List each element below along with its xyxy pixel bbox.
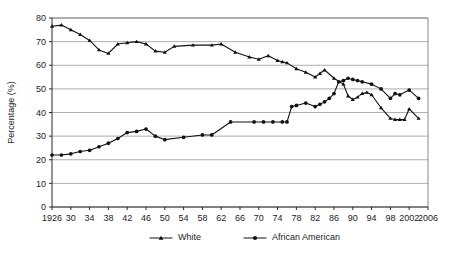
y-tick-label: 40 [36, 108, 46, 118]
series-marker-circle [351, 78, 355, 82]
chart-canvas: 0102030405060708019263034384246505458626… [0, 0, 451, 255]
x-tick-label: 38 [103, 213, 113, 223]
series-marker-circle [271, 120, 275, 124]
series-marker-circle [417, 96, 421, 100]
y-tick-label: 80 [36, 13, 46, 23]
series-marker-circle [50, 153, 54, 157]
series-marker-circle [342, 79, 346, 83]
x-tick-label: 70 [254, 213, 264, 223]
series-marker-circle [290, 105, 294, 109]
x-tick-label: 66 [235, 213, 245, 223]
series-path [52, 25, 419, 120]
x-tick-label: 2002 [399, 213, 419, 223]
series-marker-triangle [323, 68, 327, 71]
series-marker-circle [163, 138, 167, 142]
y-tick-label: 60 [36, 60, 46, 70]
series-marker-circle [253, 236, 257, 240]
series-marker-circle [280, 120, 284, 124]
series-marker-circle [135, 130, 139, 134]
series-marker-circle [285, 120, 289, 124]
series-marker-circle [60, 153, 64, 157]
series-white [50, 23, 421, 121]
series-marker-circle [313, 105, 317, 109]
x-tick-label: 78 [291, 213, 301, 223]
series-marker-circle [337, 80, 341, 84]
series-marker-circle [370, 82, 374, 86]
series-marker-triangle [365, 90, 369, 93]
x-tick-label: 42 [122, 213, 132, 223]
series-marker-circle [360, 80, 364, 84]
y-tick-label: 50 [36, 84, 46, 94]
x-tick-label: 2006 [418, 213, 438, 223]
series-marker-circle [346, 76, 350, 80]
x-tick-label: 46 [141, 213, 151, 223]
series-marker-circle [116, 137, 120, 141]
y-tick-label: 20 [36, 155, 46, 165]
x-tick-label: 1926 [42, 213, 62, 223]
line-chart-figure: 0102030405060708019263034384246505458626… [0, 0, 451, 255]
legend-label: African American [272, 232, 340, 242]
series-marker-circle [407, 88, 411, 92]
x-tick-label: 90 [348, 213, 358, 223]
x-tick-label: 34 [85, 213, 95, 223]
x-tick-label: 74 [273, 213, 283, 223]
series-marker-circle [393, 92, 397, 96]
series-marker-circle [332, 92, 336, 96]
series-marker-circle [210, 133, 214, 137]
series-marker-circle [97, 145, 101, 149]
series-marker-circle [356, 79, 360, 83]
series-marker-circle [88, 148, 92, 152]
series-marker-circle [125, 131, 129, 135]
series-marker-circle [201, 133, 205, 137]
x-tick-label: 82 [310, 213, 320, 223]
x-tick-label: 50 [160, 213, 170, 223]
x-tick-label: 98 [385, 213, 395, 223]
series-marker-circle [144, 127, 148, 131]
series-marker-circle [78, 150, 82, 154]
series-marker-circle [318, 102, 322, 106]
series-marker-circle [107, 141, 111, 145]
series-marker-circle [154, 134, 158, 138]
y-tick-label: 10 [36, 179, 46, 189]
legend-item-african-american: African American [244, 232, 340, 242]
series-marker-circle [323, 100, 327, 104]
y-tick-label: 30 [36, 131, 46, 141]
x-tick-label: 54 [179, 213, 189, 223]
series-marker-triangle [346, 94, 350, 97]
y-axis-title: Percentage (%) [6, 81, 16, 144]
series-marker-circle [379, 87, 383, 91]
x-tick-label: 86 [329, 213, 339, 223]
x-tick-label: 58 [197, 213, 207, 223]
series-marker-triangle [407, 107, 411, 110]
series-marker-circle [252, 120, 256, 124]
y-tick-label: 0 [41, 202, 46, 212]
x-tick-label: 30 [66, 213, 76, 223]
series-marker-circle [398, 93, 402, 97]
series-marker-circle [389, 96, 393, 100]
series-marker-circle [69, 152, 73, 156]
series-marker-circle [304, 101, 308, 105]
series-marker-circle [182, 135, 186, 139]
series-marker-circle [262, 120, 266, 124]
x-tick-label: 62 [216, 213, 226, 223]
legend-item-white: White [150, 232, 201, 242]
series-marker-circle [327, 96, 331, 100]
series-marker-triangle [266, 54, 270, 57]
series-marker-circle [229, 120, 233, 124]
x-tick-label: 94 [367, 213, 377, 223]
series-marker-circle [295, 104, 299, 108]
legend-label: White [178, 232, 201, 242]
y-tick-label: 70 [36, 37, 46, 47]
series-african-american [50, 76, 420, 156]
